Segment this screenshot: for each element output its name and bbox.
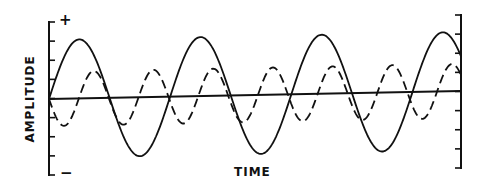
negative-marker: −	[60, 164, 74, 182]
baseline	[49, 91, 461, 99]
y-axis-label: AMPLITUDE	[23, 55, 37, 142]
positive-marker: +	[59, 11, 73, 29]
x-axis-label: TIME	[234, 165, 271, 179]
